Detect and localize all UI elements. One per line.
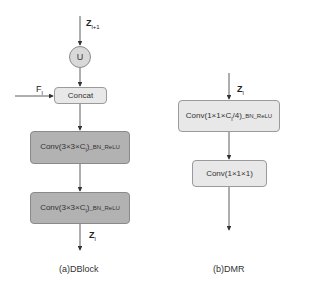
dmr-input-z-label: Zl (237, 84, 244, 96)
conv1-box: Conv(3×3×Cl)_BN_ReLU (30, 131, 130, 164)
upsample-node: U (69, 46, 91, 68)
dmr-conv2-box: Conv(1×1×1) (192, 160, 267, 187)
dmr-conv1-box: Conv(1×1×Cl/4)_BN_ReLU (178, 100, 280, 132)
input-z-label: Zl+1 (86, 18, 100, 30)
conv2-label: Conv(3×3×Cl)_BN_ReLU (40, 203, 120, 214)
dmr-conv2-label: Conv(1×1×1) (206, 169, 253, 178)
dmr-conv1-label: Conv(1×1×Cl/4)_BN_ReLU (186, 111, 272, 122)
conv2-box: Conv(3×3×Cl)_BN_ReLU (30, 192, 130, 224)
output-z-label: Zl (89, 230, 96, 242)
side-input-f-label: Fl (36, 84, 43, 96)
concat-label: Concat (68, 91, 93, 100)
concat-box: Concat (54, 87, 107, 104)
dblock-caption: (a)DBlock (59, 264, 99, 274)
upsample-label: U (77, 52, 84, 62)
conv1-label: Conv(3×3×Cl)_BN_ReLU (40, 142, 120, 153)
dmr-caption: (b)DMR (213, 264, 245, 274)
